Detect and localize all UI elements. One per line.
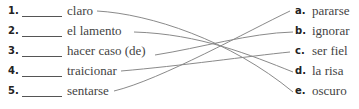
answer-blank[interactable] (22, 63, 62, 77)
item-number: 3. (8, 45, 19, 56)
right-term: pararse (312, 3, 350, 19)
item-letter: e. (295, 85, 306, 96)
answer-blank[interactable] (22, 3, 62, 17)
right-term: oscuro (312, 83, 347, 99)
answer-blank[interactable] (22, 43, 62, 57)
match-line-2-d (134, 32, 293, 72)
item-number: 1. (8, 5, 19, 16)
answer-blank[interactable] (22, 23, 62, 37)
item-number: 2. (8, 25, 19, 36)
left-term: el lamento (67, 23, 122, 39)
answer-blank[interactable] (22, 83, 62, 97)
item-letter: d. (295, 65, 306, 76)
left-term: traicionar (67, 63, 117, 79)
item-letter: a. (295, 5, 306, 16)
left-term: sentarse (67, 83, 109, 99)
left-term: claro (67, 3, 93, 19)
left-term: hacer caso (de) (67, 43, 146, 59)
item-letter: c. (295, 45, 305, 56)
right-term: la risa (312, 63, 343, 79)
item-letter: b. (295, 25, 306, 36)
right-term: ignorar (312, 23, 350, 39)
item-number: 5. (8, 85, 19, 96)
item-number: 4. (8, 65, 19, 76)
right-term: ser fiel (312, 43, 348, 59)
